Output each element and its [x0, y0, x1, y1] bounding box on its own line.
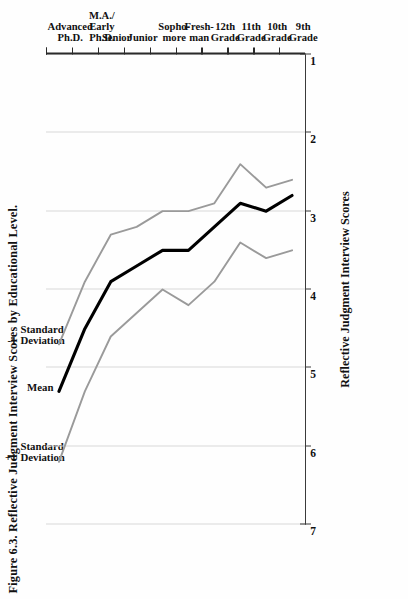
category-label-5: Sopho-more	[158, 21, 190, 43]
category-label-2: 11thGrade	[237, 21, 266, 43]
legend-marker-minus-one-sd: -1	[7, 334, 16, 345]
category-label-6: Junior	[127, 32, 157, 43]
category-tick-8	[72, 47, 73, 54]
category-label-3: 12thGrade	[211, 21, 240, 43]
category-tick-6	[124, 47, 125, 54]
series-line-0	[59, 242, 292, 461]
figure-title: Figure 6.3. Reflective Judgment Intervie…	[6, 204, 21, 593]
category-label-1: 10thGrade	[263, 21, 292, 43]
score-tick-label-5: 5	[310, 367, 316, 379]
category-label-9: AdvancedPh.D.	[47, 21, 92, 43]
score-axis-title: Reflective Judgment Interview Scores	[338, 54, 353, 524]
legend-marker-plus-one-sd: +1	[5, 452, 17, 463]
category-tick-3	[201, 47, 202, 54]
category-tick-5	[150, 47, 151, 54]
category-label-0: 9thGrade	[289, 21, 318, 43]
score-tick-label-6: 6	[310, 446, 316, 458]
plot-area	[46, 54, 305, 524]
series-line-1	[59, 195, 292, 391]
score-tick-label-3: 3	[310, 211, 316, 223]
category-axis-cap-top	[46, 47, 47, 54]
category-tick-2	[227, 47, 228, 54]
score-tick-label-4: 4	[310, 289, 316, 301]
category-tick-7	[98, 47, 99, 54]
figure-stage: Figure 6.3. Reflective Judgment Intervie…	[0, 0, 408, 599]
score-tick-label-1: 1	[310, 54, 316, 66]
score-tick-label-2: 2	[310, 132, 316, 144]
score-tick-label-7: 7	[310, 524, 316, 536]
category-tick-1	[253, 47, 254, 54]
category-tick-4	[176, 47, 177, 54]
series-lines	[46, 54, 305, 524]
category-tick-0	[279, 47, 280, 54]
